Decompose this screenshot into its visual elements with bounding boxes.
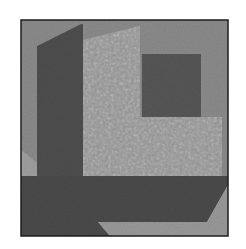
abstract-geometric-image — [0, 0, 246, 249]
inner-dark-square — [142, 54, 201, 117]
shape-regions — [21, 20, 228, 236]
dark-pillar-region — [37, 24, 83, 176]
